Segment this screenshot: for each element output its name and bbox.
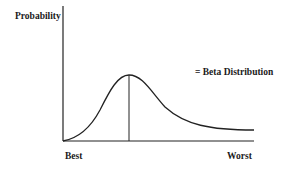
x-axis-label-best: Best [65,151,82,161]
y-axis-label: Probability [15,11,61,21]
beta-curve [63,75,254,141]
x-axis-label-worst: Worst [227,151,252,161]
legend-label: = Beta Distribution [195,67,273,77]
beta-distribution-diagram [0,0,286,171]
